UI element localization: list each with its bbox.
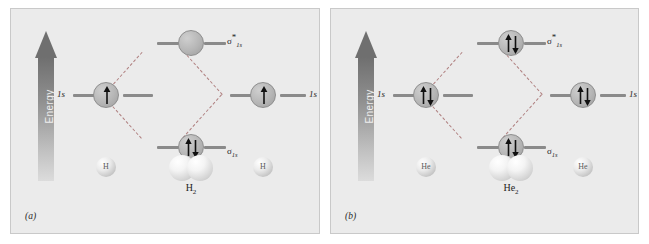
molecule-sphere-right-b — [507, 155, 533, 181]
molecule-label-b: He2 — [489, 182, 533, 196]
atom-sphere-left-a: H — [96, 157, 116, 177]
dash-right-upper-a — [183, 51, 223, 95]
molecule-h2: H2 — [169, 155, 213, 181]
ao-label-left-a: 1s — [57, 89, 65, 99]
molecular-orbital-antibonding-b — [498, 30, 524, 56]
mo-label-antibonding-a: σ*1s — [227, 32, 242, 48]
molecule-he2: He2 — [489, 155, 533, 181]
atomic-orbital-right-a — [250, 82, 276, 108]
electron-pair-arrows-icon-antibonding-b — [499, 31, 525, 57]
ao-level-line-right-outer-b — [600, 94, 626, 97]
molecule-label-a: H2 — [169, 182, 213, 196]
mo-diagram-figure: Energy 1s 1s — [0, 0, 649, 244]
molecule-sphere-right-a — [187, 155, 213, 181]
ao-level-line-left-inner-b — [443, 94, 473, 97]
mo-level-line-antibonding-left-a — [157, 42, 179, 45]
mo-label-bonding-b: σ1s — [547, 142, 558, 158]
molecular-orbital-antibonding-a — [178, 30, 204, 56]
mo-level-line-bonding-left-a — [157, 146, 179, 149]
atom-symbol-left-a: H — [96, 162, 116, 171]
mo-level-line-antibonding-left-b — [477, 42, 499, 45]
mo-level-line-antibonding-right-a — [204, 42, 226, 45]
sigma-sub-antibonding-a: 1s — [236, 41, 242, 48]
mo-label-antibonding-b: σ*1s — [547, 32, 562, 48]
atomic-orbital-left-b — [413, 82, 439, 108]
mo-level-line-antibonding-right-b — [524, 42, 546, 45]
molecule-symbol-a: H — [186, 182, 193, 193]
mo-level-line-bonding-right-a — [204, 146, 226, 149]
mo-label-bonding-a: σ1s — [227, 142, 238, 158]
panel-b: Energy 1s — [330, 8, 639, 234]
panel-caption-b: (b) — [345, 211, 356, 221]
energy-arrow-shaft-b — [358, 57, 374, 181]
sigma-sub-bonding-b: 1s — [552, 151, 558, 158]
panel-caption-a: (a) — [25, 211, 36, 221]
electron-spin-up-arrow-icon-left-a — [94, 83, 120, 109]
molecule-subscript-a: 2 — [193, 188, 197, 196]
mo-level-line-bonding-right-b — [524, 146, 546, 149]
mo-level-line-bonding-left-b — [477, 146, 499, 149]
panel-a: Energy 1s 1s — [10, 8, 320, 234]
molecule-symbol-b: He — [503, 182, 515, 193]
ao-label-left-b: 1s — [377, 89, 385, 99]
dash-right-lower-b — [502, 94, 542, 138]
atom-symbol-right-a: H — [253, 162, 273, 171]
atom-sphere-right-b: He — [573, 157, 593, 177]
ao-level-line-right-outer-a — [280, 94, 306, 97]
atomic-orbital-right-b — [570, 82, 596, 108]
ao-label-right-a: 1s — [309, 89, 317, 99]
atom-sphere-right-a: H — [253, 157, 273, 177]
electron-spin-up-arrow-icon-right-a — [251, 83, 277, 109]
atom-sphere-left-b: He — [416, 157, 436, 177]
ao-level-line-left-inner-a — [123, 94, 153, 97]
atom-symbol-left-b: He — [416, 162, 436, 171]
electron-pair-arrows-icon-left-b — [414, 83, 440, 109]
energy-arrowhead-icon-b — [355, 31, 377, 58]
sigma-sub-bonding-a: 1s — [232, 151, 238, 158]
ao-label-right-b: 1s — [629, 89, 637, 99]
electron-pair-arrows-icon-right-b — [571, 83, 597, 109]
atom-symbol-right-b: He — [573, 162, 593, 171]
molecule-subscript-b: 2 — [515, 188, 519, 196]
sigma-sub-antibonding-b: 1s — [556, 41, 562, 48]
dash-right-upper-b — [503, 51, 543, 95]
dash-right-lower-a — [182, 94, 222, 138]
energy-axis-arrow-a: Energy — [35, 31, 57, 181]
energy-axis-arrow-b: Energy — [355, 31, 377, 181]
energy-arrow-shaft-a — [38, 57, 54, 181]
energy-arrowhead-icon-a — [35, 31, 57, 58]
atomic-orbital-left-a — [93, 82, 119, 108]
